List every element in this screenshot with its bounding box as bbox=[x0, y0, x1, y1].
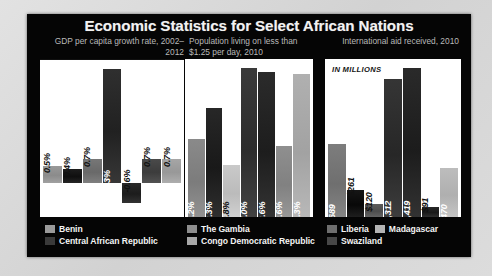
legend-swatch-icon bbox=[375, 225, 385, 233]
bar-item: 0.7% bbox=[142, 59, 161, 217]
bar-value-label: $689 bbox=[328, 204, 337, 217]
legend-poverty: The GambiaCongo Democratic Republic bbox=[187, 224, 327, 246]
bar-item: $470 bbox=[440, 59, 458, 217]
bar-group-aid: $689$261$120$1,312$1,419$91$470 bbox=[328, 59, 458, 217]
legend-label: Central African Republic bbox=[59, 236, 158, 246]
panel-subtitle-gdp: GDP per capita growth rate, 2002–2012 bbox=[41, 36, 184, 57]
bar-item: $91 bbox=[422, 59, 440, 217]
bar-item: 0.4% bbox=[63, 59, 82, 217]
legend-label: Congo Democratic Republic bbox=[201, 236, 315, 246]
bar-value-label: 29.8% bbox=[222, 202, 231, 217]
bar-rect: 29.8% bbox=[223, 165, 240, 217]
bar-rect: 62.3% bbox=[206, 108, 223, 217]
legend-item[interactable]: Madagascar bbox=[375, 224, 438, 234]
legend-swatch-icon bbox=[45, 237, 55, 245]
bar-group-poverty: 44.2%62.3%29.8%85.0%82.6%40.6%81.3% bbox=[188, 59, 310, 217]
legend-item[interactable]: The Gambia bbox=[187, 224, 327, 234]
bar-item: -0.6% bbox=[122, 59, 141, 217]
bar-rect: 85.0% bbox=[241, 68, 258, 217]
legend-label: Benin bbox=[59, 224, 83, 234]
bar-item: 0.5% bbox=[43, 59, 62, 217]
bar-item: 29.8% bbox=[223, 59, 240, 217]
bar-item: 40.6% bbox=[276, 59, 293, 217]
bar-value-label: 0.7% bbox=[162, 147, 171, 167]
legend-item[interactable]: Central African Republic bbox=[45, 236, 189, 246]
bar-value-label: 0.5% bbox=[43, 154, 52, 174]
bar-value-label: $1,419 bbox=[403, 201, 412, 217]
bar-item: $1,312 bbox=[384, 59, 402, 217]
panel-subtitle-poverty: Population living on less than $1.25 per… bbox=[189, 36, 317, 57]
legend-label: Swaziland bbox=[341, 236, 382, 246]
bar-value-label: $1,312 bbox=[384, 201, 393, 217]
bar-value-label: 44.2% bbox=[187, 202, 196, 217]
bar-item: $261 bbox=[347, 59, 365, 217]
bar-rect: 81.3% bbox=[293, 74, 310, 217]
bar-item: 82.6% bbox=[258, 59, 275, 217]
bar-rect: $1,419 bbox=[403, 68, 421, 218]
bar-value-label: -0.6% bbox=[123, 169, 132, 192]
bar-item: 81.3% bbox=[293, 59, 310, 217]
bar-rect: 44.2% bbox=[188, 139, 205, 217]
chart-panel-aid: IN MILLIONS $689$261$120$1,312$1,419$91$… bbox=[325, 59, 461, 217]
plot-area-poverty: 44.2%62.3%29.8%85.0%82.6%40.6%81.3% bbox=[185, 59, 313, 217]
bar-rect: 82.6% bbox=[258, 72, 275, 217]
bar-rect: $470 bbox=[440, 168, 458, 218]
legend-gdp: BeninCentral African Republic bbox=[45, 224, 189, 246]
bar-value-label: $261 bbox=[346, 178, 355, 197]
page-title: Economic Statistics for Select African N… bbox=[27, 17, 471, 34]
bar-value-label: 3.3% bbox=[103, 170, 112, 190]
bar-rect: $689 bbox=[328, 144, 346, 217]
bar-rect: 40.6% bbox=[276, 146, 293, 217]
plot-area-gdp: 0.5%0.4%0.7%3.3%-0.6%0.7%0.7% bbox=[40, 59, 184, 217]
legend-item[interactable]: Congo Democratic Republic bbox=[187, 236, 327, 246]
bar-item: 0.7% bbox=[83, 59, 102, 217]
legend-swatch-icon bbox=[45, 225, 55, 233]
legend-item[interactable]: Swaziland bbox=[327, 236, 382, 246]
legend-swatch-icon bbox=[187, 237, 197, 245]
panel-subtitle-aid: International aid received, 2010 bbox=[325, 36, 459, 47]
bar-value-label: 0.7% bbox=[143, 147, 152, 167]
legend-item[interactable]: Liberia bbox=[327, 224, 369, 234]
bar-value-label: 82.6% bbox=[258, 202, 267, 217]
bar-item: 3.3% bbox=[103, 59, 122, 217]
bar-value-label: $470 bbox=[440, 204, 449, 217]
bar-value-label: 62.3% bbox=[205, 202, 214, 217]
legend-label: The Gambia bbox=[201, 224, 250, 234]
bar-item: 85.0% bbox=[241, 59, 258, 217]
screenshot-frame: Economic Statistics for Select African N… bbox=[0, 0, 492, 276]
bar-item: $689 bbox=[328, 59, 346, 217]
chart-panel-gdp: 0.5%0.4%0.7%3.3%-0.6%0.7%0.7% bbox=[40, 59, 184, 217]
bar-value-label: 0.4% bbox=[63, 157, 72, 177]
bar-value-label: 85.0% bbox=[240, 202, 249, 217]
bar-rect: $1,312 bbox=[384, 79, 402, 217]
bar-group-gdp: 0.5%0.4%0.7%3.3%-0.6%0.7%0.7% bbox=[43, 59, 181, 217]
bar-item: 44.2% bbox=[188, 59, 205, 217]
legend-label: Madagascar bbox=[389, 224, 438, 234]
legend-aid: LiberiaMadagascarSwaziland bbox=[327, 224, 469, 246]
bar-item: $120 bbox=[365, 59, 383, 217]
bar-item: 0.7% bbox=[162, 59, 181, 217]
bar-item: 62.3% bbox=[206, 59, 223, 217]
legend-label: Liberia bbox=[341, 224, 369, 234]
plot-area-aid: IN MILLIONS $689$261$120$1,312$1,419$91$… bbox=[325, 59, 461, 217]
chart-panel-poverty: 44.2%62.3%29.8%85.0%82.6%40.6%81.3% bbox=[185, 59, 313, 217]
infographic-board: Economic Statistics for Select African N… bbox=[27, 14, 471, 257]
bar-value-label: 0.7% bbox=[83, 147, 92, 167]
bar-item: $1,419 bbox=[403, 59, 421, 217]
legend-swatch-icon bbox=[327, 237, 337, 245]
legend-swatch-icon bbox=[187, 225, 197, 233]
bar-rect: 3.3% bbox=[103, 69, 122, 182]
bar-value-label: 81.3% bbox=[293, 202, 302, 217]
legend-item[interactable]: Benin bbox=[45, 224, 189, 234]
bar-value-label: 40.6% bbox=[275, 202, 284, 217]
legend-swatch-icon bbox=[327, 225, 337, 233]
bar-value-label: $120 bbox=[365, 193, 374, 212]
bar-value-label: $91 bbox=[421, 198, 430, 213]
